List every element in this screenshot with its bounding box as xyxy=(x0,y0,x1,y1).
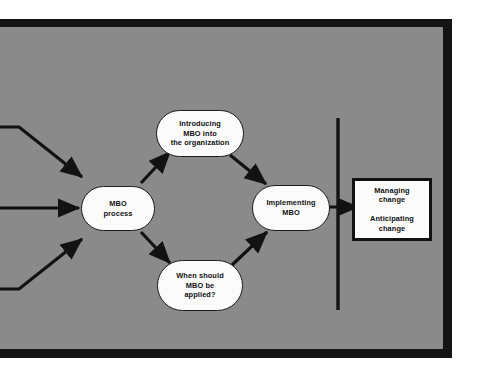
node-implementing-line1: Implementing xyxy=(266,198,315,208)
node-when-line1: When should xyxy=(176,271,224,281)
outcome-managing-line1: Managing xyxy=(374,186,409,196)
inbound-upper-elbow-arrow xyxy=(0,127,82,177)
node-when-line2: MBO be xyxy=(186,281,215,291)
introducing-to-implementing-arrow xyxy=(230,155,266,184)
node-process-line1: MBO xyxy=(109,199,127,209)
node-introducing-line1: Introducing xyxy=(179,119,221,129)
diagram-canvas: Introducing MBO into the organization MB… xyxy=(0,27,443,349)
diagram-page: Introducing MBO into the organization MB… xyxy=(0,0,480,387)
inbound-lower-elbow-arrow xyxy=(0,239,82,289)
outcome-anticipating-line2: change xyxy=(370,224,414,234)
node-change-outcomes[interactable]: Managing change Anticipating change xyxy=(352,178,432,241)
node-introducing-line2: MBO into xyxy=(183,129,217,139)
node-implementing-mbo[interactable]: Implementing MBO xyxy=(252,185,330,231)
node-when-line3: applied? xyxy=(184,290,215,300)
outcome-managing-change-block: Managing change xyxy=(374,186,409,205)
outcome-anticipating-line1: Anticipating xyxy=(370,214,414,224)
node-introducing-line3: the organization xyxy=(171,138,230,148)
node-process-line2: process xyxy=(103,209,132,219)
outcome-managing-line2: change xyxy=(374,195,409,205)
node-implementing-line2: MBO xyxy=(282,208,300,218)
when-to-implementing-arrow xyxy=(232,232,267,265)
node-mbo-process[interactable]: MBO process xyxy=(81,186,155,231)
node-introducing-mbo[interactable]: Introducing MBO into the organization xyxy=(156,110,244,157)
process-to-when-arrow xyxy=(141,232,170,263)
outcome-anticipating-change-block: Anticipating change xyxy=(370,214,414,233)
process-to-introducing-arrow xyxy=(141,152,170,183)
node-when-should-mbo-be-applied[interactable]: When should MBO be applied? xyxy=(157,260,243,311)
